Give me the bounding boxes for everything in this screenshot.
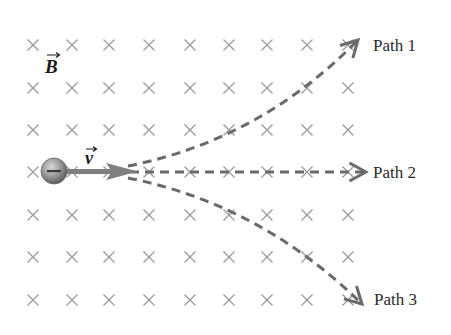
field-into-page-icon bbox=[262, 83, 273, 94]
field-into-page-icon bbox=[67, 252, 78, 263]
field-into-page-icon bbox=[28, 125, 39, 136]
field-into-page-icon bbox=[67, 40, 78, 51]
field-into-page-icon bbox=[302, 295, 313, 306]
v-symbol: v bbox=[85, 148, 94, 168]
path-1-label: Path 1 bbox=[373, 36, 416, 55]
field-into-page-icon bbox=[28, 295, 39, 306]
field-into-page-icon bbox=[28, 252, 39, 263]
field-into-page-icon bbox=[262, 125, 273, 136]
field-into-page-icon bbox=[144, 125, 155, 136]
field-into-page-icon bbox=[67, 210, 78, 221]
magnetic-field-diagram: B v Path 1 Path 2 Path 3 bbox=[0, 0, 451, 335]
field-into-page-icon bbox=[185, 83, 196, 94]
field-into-page-icon bbox=[224, 252, 235, 263]
field-into-page-icon bbox=[144, 252, 155, 263]
field-into-page-icon bbox=[104, 252, 115, 263]
velocity-label: v bbox=[85, 147, 97, 169]
field-into-page-icon bbox=[144, 210, 155, 221]
b-field-label: B bbox=[44, 53, 60, 78]
field-into-page-icon bbox=[262, 40, 273, 51]
field-into-page-icon bbox=[262, 295, 273, 306]
field-into-page-icon bbox=[28, 210, 39, 221]
field-into-page-icon bbox=[343, 252, 354, 263]
field-into-page-icon bbox=[104, 295, 115, 306]
field-into-page-icon bbox=[343, 210, 354, 221]
field-into-page-icon bbox=[104, 83, 115, 94]
field-into-page-icon bbox=[104, 210, 115, 221]
field-into-page-icon bbox=[28, 167, 39, 178]
b-symbol: B bbox=[44, 56, 58, 77]
field-into-page-icon bbox=[67, 295, 78, 306]
field-into-page-icon bbox=[224, 40, 235, 51]
field-into-page-icon bbox=[185, 295, 196, 306]
field-into-page-icon bbox=[67, 83, 78, 94]
path-3-curve bbox=[128, 178, 362, 304]
field-into-page-icon bbox=[185, 40, 196, 51]
field-into-page-icon bbox=[144, 40, 155, 51]
field-into-page-icon bbox=[144, 295, 155, 306]
field-into-page-icon bbox=[104, 125, 115, 136]
field-into-page-icon bbox=[104, 40, 115, 51]
field-into-page-icon bbox=[343, 125, 354, 136]
charged-particle bbox=[41, 158, 67, 184]
field-into-page-icon bbox=[302, 40, 313, 51]
field-into-page-icon bbox=[224, 83, 235, 94]
field-into-page-icon bbox=[144, 83, 155, 94]
field-into-page-icon bbox=[343, 83, 354, 94]
path-3-label: Path 3 bbox=[374, 290, 417, 309]
field-into-page-icon bbox=[302, 210, 313, 221]
field-into-page-icon bbox=[224, 295, 235, 306]
path-1 bbox=[128, 40, 358, 166]
field-into-page-icon bbox=[28, 40, 39, 51]
field-into-page-icon bbox=[185, 210, 196, 221]
field-into-page-icon bbox=[28, 83, 39, 94]
field-into-page-icon bbox=[262, 252, 273, 263]
field-into-page-icon bbox=[67, 125, 78, 136]
path-2-label: Path 2 bbox=[373, 163, 416, 182]
field-into-page-icon bbox=[185, 125, 196, 136]
field-into-page-icon bbox=[262, 210, 273, 221]
negative-charge-icon bbox=[47, 170, 61, 172]
path-1-curve bbox=[128, 40, 358, 166]
path-3 bbox=[128, 178, 362, 304]
field-into-page-icon bbox=[302, 125, 313, 136]
field-into-page-icon bbox=[185, 252, 196, 263]
